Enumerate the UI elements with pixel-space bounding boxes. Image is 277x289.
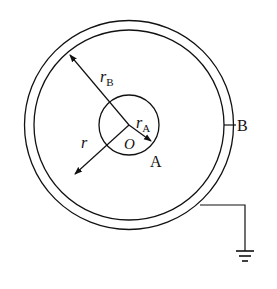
- ground-icon: [236, 251, 254, 261]
- label-rb: rB: [100, 68, 114, 88]
- label-r: r: [81, 134, 88, 151]
- ground-wire: [200, 205, 245, 251]
- spherical-capacitor-diagram: rB rA r O A B: [0, 0, 277, 289]
- label-a: A: [150, 153, 162, 170]
- label-o: O: [124, 136, 135, 152]
- label-b: B: [237, 117, 248, 134]
- radius-rb-arrow: [70, 55, 129, 125]
